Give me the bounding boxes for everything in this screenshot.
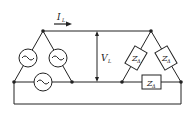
current-label: I: [56, 12, 61, 22]
source-bottom: [34, 73, 52, 91]
node: [70, 80, 74, 84]
node: [41, 29, 45, 33]
source-right: [49, 49, 67, 67]
delta-delta-circuit: Z Δ Z Δ Z Δ I L V L: [0, 0, 192, 114]
current-arrow-head: [66, 22, 72, 27]
impedance-subscript: Δ: [151, 83, 156, 89]
node: [12, 80, 16, 84]
voltage-label-sub: L: [107, 58, 112, 64]
source-left: [19, 49, 37, 67]
node: [179, 80, 183, 84]
node: [120, 80, 124, 84]
impedance-subscript: Δ: [166, 58, 171, 64]
voltage-arrow-top-head: [95, 31, 99, 36]
impedance-subscript: Δ: [136, 58, 141, 64]
voltage-arrow-bottom-head: [95, 77, 99, 82]
load-right: Z Δ: [155, 46, 177, 70]
current-label-sub: L: [61, 17, 66, 23]
node: [149, 29, 153, 33]
load-bottom: Z Δ: [142, 75, 161, 89]
load-left: Z Δ: [125, 46, 147, 70]
